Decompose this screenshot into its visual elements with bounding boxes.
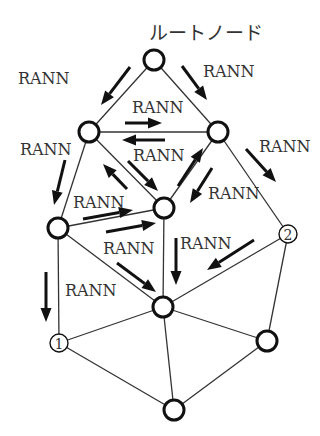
arrow-icon: [41, 272, 52, 322]
rann-label: RANN: [180, 234, 232, 253]
rann-label: RANN: [203, 62, 255, 81]
node-number: 2: [284, 227, 293, 243]
node-node-1: 1: [50, 334, 68, 352]
edge-node-1-bottom: [59, 343, 174, 410]
rann-label: RANN: [18, 69, 70, 88]
node-upper-right: [208, 122, 228, 142]
edge-lower-right-bottom: [174, 341, 267, 410]
arrow-icon: [106, 220, 156, 232]
rann-label: RANN: [65, 281, 117, 300]
edge-lower-center-node-1: [59, 307, 163, 343]
arrow-icon: [52, 160, 65, 205]
rann-labels: RANNRANNRANNRANNRANNRANNRANNRANNRANNRANN…: [18, 62, 311, 300]
rann-label: RANN: [73, 193, 125, 212]
arrow-icon: [101, 67, 130, 105]
rann-label: RANN: [132, 98, 184, 117]
node-bottom: [164, 400, 184, 420]
edge-lower-center-bottom: [163, 307, 174, 410]
network-diagram: ルートノード RANNRANNRANNRANNRANNRANNRANNRANNR…: [0, 0, 320, 436]
node-number: 1: [55, 336, 64, 352]
edge-root-upper-left: [89, 60, 154, 132]
node-center: [154, 198, 174, 218]
edge-lower-center-lower-right: [163, 307, 267, 341]
rann-label: RANN: [208, 184, 260, 203]
rann-label: RANN: [103, 239, 155, 258]
edge-mid-left-node-1: [58, 228, 59, 343]
arrow-icon: [125, 118, 162, 129]
rann-label: RANN: [133, 146, 185, 165]
node-mid-left: [48, 218, 68, 238]
arrow-icon: [122, 135, 165, 146]
node-root: [144, 50, 164, 70]
node-lower-center: [153, 297, 173, 317]
root-node-title: ルートノード: [149, 22, 263, 44]
node-lower-right: [257, 331, 277, 351]
edge-node-2-lower-right: [267, 234, 288, 341]
rann-label: RANN: [20, 140, 72, 159]
node-upper-left: [79, 122, 99, 142]
node-node-2: 2: [279, 225, 297, 243]
edge-center-lower-center: [163, 208, 164, 307]
rann-label: RANN: [259, 137, 311, 156]
